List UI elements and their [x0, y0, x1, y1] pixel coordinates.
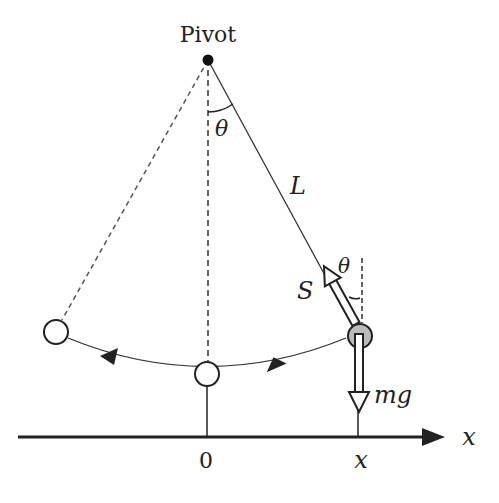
pendulum-diagram: Pivot θ L θ S mg 0 x x — [0, 0, 499, 503]
bob-left-extreme — [44, 320, 68, 344]
arc-arrow-right-icon — [267, 357, 288, 376]
left-extreme-string — [62, 60, 208, 320]
pivot-point — [203, 55, 214, 66]
origin-label: 0 — [199, 448, 213, 473]
pivot-label: Pivot — [180, 22, 237, 47]
theta-bob-label: θ — [338, 254, 350, 278]
length-label: L — [289, 172, 306, 200]
angle-arc-top — [208, 104, 233, 112]
bob-equilibrium — [195, 362, 219, 386]
theta-top-label: θ — [215, 116, 228, 141]
angle-arc-bob — [349, 297, 360, 299]
weight-label: mg — [374, 381, 412, 409]
position-label: x — [354, 446, 368, 474]
tension-label: S — [297, 277, 313, 305]
axis-label: x — [462, 423, 476, 451]
x-axis — [18, 428, 445, 446]
axis-arrow-icon — [422, 428, 445, 446]
